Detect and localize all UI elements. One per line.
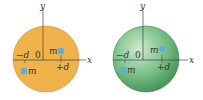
x-axis-label: x [189, 55, 194, 65]
mass-upper-dot [159, 46, 165, 52]
x-axis-label: x [87, 55, 92, 65]
mass-upper-label: m [49, 46, 58, 56]
mass-lower-dot [21, 68, 28, 75]
left-panel: y x 0 −d +d m m [13, 1, 92, 92]
neg-d-label: −d [16, 50, 30, 60]
neg-d-label: −d [116, 50, 130, 60]
mass-lower-label: m [28, 66, 37, 76]
right-panel: y x 0 −d +d m m [113, 1, 194, 92]
y-axis-label: y [39, 1, 46, 11]
mass-lower-label: m [127, 65, 136, 75]
y-axis-label: y [139, 1, 146, 11]
diagram: y x 0 −d +d m m y x 0 −d +d m m [0, 0, 203, 100]
origin-label: 0 [35, 50, 41, 60]
origin-label: 0 [135, 50, 141, 60]
pos-d-label: +d [56, 62, 70, 72]
mass-lower-dot [120, 67, 126, 73]
mass-upper-dot [58, 48, 65, 55]
pos-d-label: +d [157, 62, 171, 72]
mass-upper-label: m [150, 45, 159, 55]
